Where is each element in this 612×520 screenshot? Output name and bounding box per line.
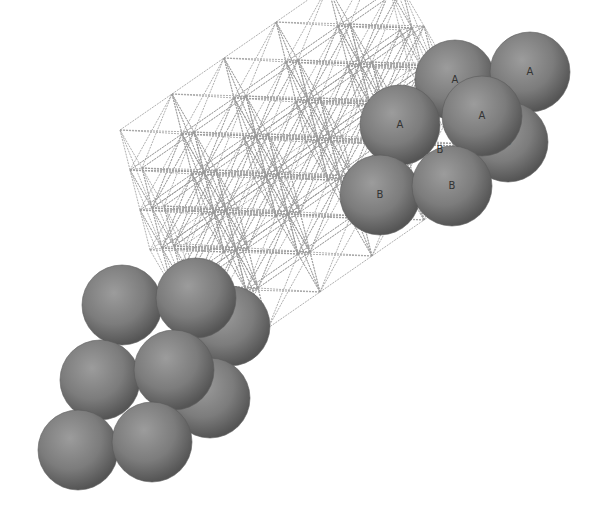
atom-sphere bbox=[112, 402, 192, 482]
lattice-edge bbox=[130, 134, 182, 170]
lattice-edge bbox=[182, 134, 214, 212]
lattice-edge bbox=[182, 98, 234, 134]
lattice-edge bbox=[286, 62, 318, 140]
atom-sphere-a: A bbox=[360, 85, 440, 165]
atom-sphere-a: A bbox=[442, 76, 522, 156]
lattice-edge bbox=[402, 0, 424, 26]
sphere-body bbox=[82, 265, 162, 345]
lattice-edge bbox=[276, 0, 328, 22]
lattice-edge bbox=[120, 130, 152, 208]
lattice-edge bbox=[328, 0, 338, 26]
sphere-label: A bbox=[397, 119, 404, 130]
lattice-edge bbox=[350, 0, 380, 24]
lattice-edge bbox=[246, 22, 276, 96]
sphere-label: A bbox=[527, 66, 534, 77]
lattice-edge bbox=[256, 136, 288, 214]
sphere-label: A bbox=[452, 74, 459, 85]
lattice-edge bbox=[234, 98, 266, 176]
lattice-edge bbox=[338, 26, 370, 104]
layer-label: B bbox=[437, 144, 444, 155]
lattice-edge bbox=[246, 96, 278, 174]
lattice-edge bbox=[120, 130, 130, 170]
lattice-edge bbox=[234, 62, 286, 98]
lattice-edge bbox=[360, 0, 402, 64]
lattice-edge bbox=[360, 0, 390, 64]
lattice-edge bbox=[390, 0, 422, 68]
lattice-edge bbox=[276, 22, 308, 100]
atom-sphere bbox=[134, 330, 214, 410]
lattice-edge bbox=[308, 100, 340, 178]
lattice-edge bbox=[266, 176, 298, 254]
lattice-edge bbox=[226, 210, 258, 288]
sphere-body bbox=[112, 402, 192, 482]
lattice-diagram: AABAABBB bbox=[0, 0, 612, 520]
lattice-edge bbox=[286, 26, 338, 62]
sphere-cluster-bottom-left bbox=[38, 258, 270, 490]
lattice-edge bbox=[172, 94, 194, 132]
lattice-edge bbox=[142, 94, 172, 168]
lattice-edge bbox=[224, 58, 234, 98]
lattice-edge bbox=[296, 102, 328, 180]
sphere-cluster-top-right: AABAABBB bbox=[340, 32, 570, 235]
lattice-edge bbox=[140, 210, 162, 248]
lattice-edge bbox=[142, 168, 174, 246]
lattice-edge bbox=[194, 58, 224, 132]
lattice-edge bbox=[130, 170, 162, 248]
lattice-edge bbox=[258, 252, 310, 288]
lattice-edge bbox=[360, 0, 390, 64]
lattice-edge bbox=[360, 0, 402, 64]
lattice-edge bbox=[298, 254, 320, 292]
atom-sphere bbox=[156, 258, 236, 338]
lattice-edge bbox=[268, 254, 298, 328]
atom-sphere bbox=[60, 340, 140, 420]
lattice-edge bbox=[120, 130, 142, 168]
lattice-edge bbox=[192, 174, 224, 252]
lattice-edge bbox=[350, 24, 382, 102]
lattice-edge bbox=[224, 22, 276, 58]
sphere-body bbox=[156, 258, 236, 338]
lattice-edge bbox=[224, 58, 256, 136]
atom-sphere-b: B bbox=[340, 155, 420, 235]
lattice-edge bbox=[288, 214, 320, 292]
lattice-edge bbox=[320, 218, 350, 292]
atom-sphere-b: B bbox=[412, 146, 492, 226]
atom-sphere bbox=[82, 265, 162, 345]
sphere-label: A bbox=[479, 110, 486, 121]
atom-sphere bbox=[38, 410, 118, 490]
lattice-edge bbox=[204, 172, 236, 250]
sphere-label: B bbox=[449, 180, 456, 191]
lattice-edge bbox=[278, 174, 310, 252]
lattice-edge bbox=[328, 0, 338, 26]
lattice-edge bbox=[320, 98, 352, 176]
lattice-edge bbox=[268, 292, 320, 328]
lattice-edge bbox=[216, 170, 248, 248]
lattice-edge bbox=[172, 58, 224, 94]
lattice-edge bbox=[224, 58, 246, 96]
sphere-body bbox=[38, 410, 118, 490]
lattice-edge bbox=[286, 0, 328, 62]
lattice-edge bbox=[268, 134, 300, 212]
lattice-edge bbox=[320, 256, 372, 292]
lattice-edge bbox=[130, 170, 152, 208]
lattice-edge bbox=[120, 94, 172, 130]
lattice-edge bbox=[172, 94, 204, 172]
sphere-label: B bbox=[377, 189, 384, 200]
lattice-edge bbox=[172, 94, 182, 134]
sphere-body bbox=[134, 330, 214, 410]
lattice-edge bbox=[298, 60, 330, 138]
lattice-edge bbox=[276, 22, 286, 62]
sphere-body bbox=[60, 340, 140, 420]
lattice-edge bbox=[194, 132, 226, 210]
lattice-edge bbox=[244, 138, 276, 216]
lattice-edge bbox=[276, 22, 298, 60]
